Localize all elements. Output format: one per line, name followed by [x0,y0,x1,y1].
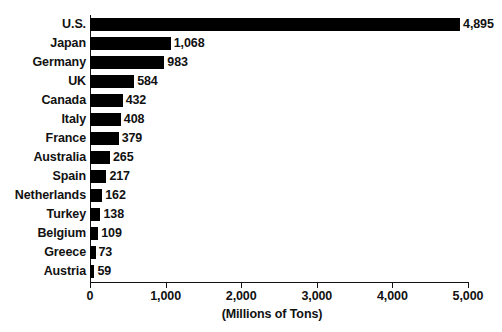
bar-value-label: 584 [134,74,158,89]
bar-row: 73 [90,243,468,262]
bar [90,18,460,31]
category-label: Italy [0,110,86,129]
x-axis-tick [317,283,318,288]
bar-row: 217 [90,167,468,186]
bar-value-label: 59 [94,264,111,279]
bar [90,132,119,145]
bar-value-label: 1,068 [171,36,205,51]
bar-row: 162 [90,186,468,205]
bar-row: 983 [90,53,468,72]
x-axis-tick-label: 2,000 [206,289,276,303]
category-label: Belgium [0,224,86,243]
bar-value-label: 983 [164,55,188,70]
category-label: Greece [0,243,86,262]
category-label: U.S. [0,15,86,34]
category-label: Netherlands [0,186,86,205]
x-axis-tick-label: 1,000 [131,289,201,303]
bar [90,56,164,69]
x-axis-line [90,282,469,283]
bar-row: 4,895 [90,15,468,34]
category-label: Austria [0,262,86,281]
category-label: Australia [0,148,86,167]
bar [90,170,106,183]
bar-value-label: 408 [121,112,145,127]
bar-value-label: 432 [123,93,147,108]
category-label: UK [0,72,86,91]
bar-row: 584 [90,72,468,91]
x-axis-caption: (Millions of Tons) [0,307,502,321]
bar-row: 59 [90,262,468,281]
bar-row: 1,068 [90,34,468,53]
bar-value-label: 4,895 [460,17,494,32]
x-axis-tick-label: 3,000 [282,289,352,303]
bar-value-label: 265 [110,150,134,165]
x-axis-tick-label: 4,000 [357,289,427,303]
bar [90,189,102,202]
x-axis-tick [90,283,91,288]
x-axis-tick-label: 5,000 [433,289,502,303]
category-label: Turkey [0,205,86,224]
bar-value-label: 217 [106,169,130,184]
x-axis-tick [392,283,393,288]
x-axis-tick [241,283,242,288]
bar-row: 109 [90,224,468,243]
plot-area: 4,8951,068983584432408379265217162138109… [90,15,468,281]
bar [90,227,98,240]
bar [90,113,121,126]
x-axis-tick [166,283,167,288]
category-axis-labels: U.S.JapanGermanyUKCanadaItalyFranceAustr… [0,15,86,281]
bar-value-label: 138 [100,207,124,222]
x-axis-caption-text: (Millions of Tons) [222,307,323,321]
bar-value-label: 162 [102,188,126,203]
category-label: Japan [0,34,86,53]
bar-row: 408 [90,110,468,129]
category-label: Spain [0,167,86,186]
bar-row: 379 [90,129,468,148]
bar-row: 138 [90,205,468,224]
bar-row: 432 [90,91,468,110]
bar-value-label: 109 [98,226,122,241]
x-axis-tick [468,283,469,288]
bar [90,37,171,50]
category-label: France [0,129,86,148]
bar-value-label: 379 [119,131,143,146]
bar [90,75,134,88]
category-label: Germany [0,53,86,72]
category-label: Canada [0,91,86,110]
bar-row: 265 [90,148,468,167]
bar [90,94,123,107]
bar-chart: U.S.JapanGermanyUKCanadaItalyFranceAustr… [0,0,502,332]
bar [90,151,110,164]
x-axis-tick-label: 0 [55,289,125,303]
bar-value-label: 73 [96,245,113,260]
bar [90,208,100,221]
